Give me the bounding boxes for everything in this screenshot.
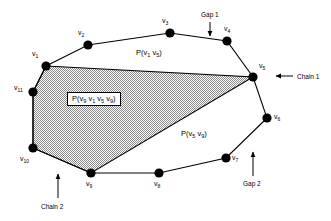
vertex-label-v5: v5	[259, 62, 265, 69]
vertex-label-v9: v9	[86, 180, 92, 187]
vertex-dot-v2	[83, 40, 92, 49]
vertex-label-v8: v8	[154, 180, 160, 187]
vertex-label-v1: v1	[32, 50, 38, 57]
vertex-dot-v7	[221, 153, 230, 162]
vertex-dot-v9	[86, 168, 95, 177]
polygon-diagram: v1v2v3v4v5v6v7v8v9v10v11 P(v1 v5) P(v5 v…	[0, 0, 331, 221]
vertex-dot-v1	[41, 61, 50, 70]
vertex-dot-v6	[262, 113, 271, 122]
vertex-label-v6: v6	[274, 113, 280, 120]
label-shaded-region: P(v9 v1 v5 v9)	[67, 92, 121, 106]
vertex-label-v10: v10	[20, 155, 29, 162]
diagram-canvas	[0, 0, 331, 221]
vertex-dot-v3	[165, 28, 174, 37]
vertex-label-v3: v3	[162, 17, 168, 24]
vertex-label-v7: v7	[232, 154, 238, 161]
annotation-label-chain2: Chain 2	[41, 203, 63, 210]
label-chain-upper: P(v1 v5)	[136, 49, 162, 57]
annotation-label-chain1: Chain 1	[297, 73, 319, 80]
vertex-dot-v8	[154, 168, 163, 177]
vertex-dot-v5	[248, 72, 257, 81]
vertex-label-v4: v4	[224, 25, 230, 32]
label-chain-lower: P(v5 v9)	[181, 130, 207, 138]
vertex-dot-v4	[222, 36, 231, 45]
shaded-subpolygon	[33, 66, 253, 173]
vertex-dot-v10	[28, 143, 37, 152]
vertex-dot-v11	[28, 87, 37, 96]
annotation-label-gap2: Gap 2	[243, 180, 261, 187]
vertex-label-v2: v2	[78, 29, 84, 36]
annotation-label-gap1: Gap 1	[201, 11, 219, 18]
vertex-label-v11: v11	[14, 84, 23, 91]
